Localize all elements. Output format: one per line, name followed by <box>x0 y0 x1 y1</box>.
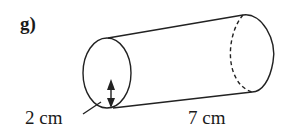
bottom-edge <box>113 92 252 108</box>
length-label: 7 cm <box>188 108 225 127</box>
radius-arrowhead-up-icon <box>107 79 115 90</box>
radius-label: 2 cm <box>25 108 62 127</box>
back-face-hidden-arc <box>230 15 252 92</box>
back-face-visible-arc <box>243 15 274 92</box>
part-label: g) <box>20 14 36 33</box>
radius-leader-line <box>83 102 101 114</box>
top-edge <box>108 15 243 38</box>
front-face-ellipse <box>83 38 131 108</box>
